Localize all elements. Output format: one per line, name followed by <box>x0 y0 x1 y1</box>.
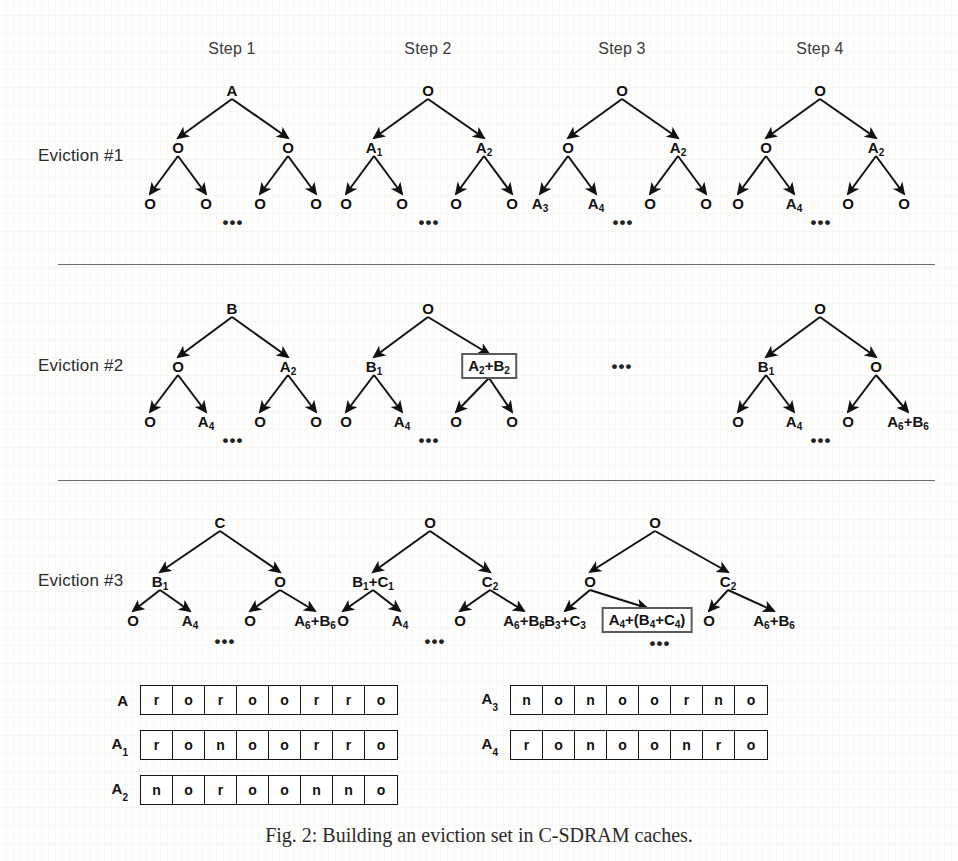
row2-step2-level2-node-1: B1 <box>366 359 382 374</box>
bit-array-5-cell-7: r <box>703 731 735 759</box>
row2-step2-leaf-node-4: O <box>506 414 518 429</box>
row3-step3-leaf-node-3: O <box>703 613 715 628</box>
row3-step3-leaf-node-4: A6+B6 <box>753 613 795 628</box>
row3-step3-level2-node-2: C2 <box>720 574 736 589</box>
row3-step1-root-node: C <box>215 515 226 530</box>
row1-step4-level2-node-1: O <box>760 140 772 155</box>
row1-step1-leaf-node-3: O <box>254 196 266 211</box>
row1-step3-leaf-node-1: A3 <box>532 196 548 211</box>
eviction-row-label-3: Eviction #3 <box>38 571 123 591</box>
bit-array-2-cell-5: o <box>269 731 301 759</box>
row3-step1-level2-node-1: B1 <box>152 574 168 589</box>
bit-array-5-cell-8: o <box>735 731 767 759</box>
bit-array-label-4: A3 <box>482 690 498 710</box>
row1-step2-level2-node-2: A2 <box>476 140 492 155</box>
row2-step4-leaf-node-3: O <box>842 414 854 429</box>
row1-step2-level2-node-1: A1 <box>366 140 382 155</box>
bit-array-5-cell-2: o <box>543 731 575 759</box>
bit-array-3: noroonno <box>140 775 398 805</box>
row2-step4-leaf-node-4: A6+B6 <box>887 414 929 429</box>
row2-step1-leaf-node-1: O <box>144 414 156 429</box>
figure-caption: Fig. 2: Building an eviction set in C-SD… <box>0 824 958 847</box>
bit-array-3-cell-1: n <box>141 776 173 804</box>
row2-step4-level2-node-1: B1 <box>758 359 774 374</box>
row1-step1-leaf-node-2: O <box>200 196 212 211</box>
row2-step1-leaf-node-3: O <box>254 414 266 429</box>
bit-array-1-cell-2: o <box>173 686 205 714</box>
row1-step1-root-node: A <box>227 83 238 98</box>
row1-step3-leaf-node-4: O <box>700 196 712 211</box>
row1-step4-level2-node-2: A2 <box>868 140 884 155</box>
bit-array-3-cell-2: o <box>173 776 205 804</box>
row1-step4-leaf-node-1: O <box>732 196 744 211</box>
step-header-2: Step 2 <box>404 40 451 58</box>
row3-step2-leaf-node-2: A4 <box>392 613 408 628</box>
bit-array-4-cell-6: r <box>671 686 703 714</box>
bit-array-4-cell-4: o <box>607 686 639 714</box>
row3-step1-leaf-node-3: O <box>244 613 256 628</box>
row1-step4-leaf-node-3: O <box>842 196 854 211</box>
bit-array-label-1: A <box>117 692 128 709</box>
row2-step4-level2-node-2: O <box>870 359 882 374</box>
row2-step1-level2-node-2: A2 <box>280 359 296 374</box>
bit-array-4-cell-7: n <box>703 686 735 714</box>
bit-array-label-5: A4 <box>482 735 498 755</box>
row3-step1-ellipsis: ••• <box>215 633 236 650</box>
row3-step3-ellipsis: ••• <box>650 635 671 652</box>
row3-step2-root-node: O <box>424 515 436 530</box>
step-header-3: Step 3 <box>598 40 645 58</box>
row2-step4-leaf-node-1: O <box>732 414 744 429</box>
bit-array-2-cell-7: r <box>333 731 365 759</box>
row3-step2-ellipsis: ••• <box>425 633 446 650</box>
bit-array-1-cell-7: r <box>333 686 365 714</box>
row1-step2-leaf-node-3: O <box>450 196 462 211</box>
bit-array-1-cell-6: r <box>301 686 333 714</box>
row3-step2-level2-node-1: B1+C1 <box>352 574 394 589</box>
row2-step1-level2-node-1: O <box>172 359 184 374</box>
row1-step2-root-node: O <box>422 83 434 98</box>
row3-step3-leaf-node-2: A4+(B4+C4) <box>602 607 693 633</box>
bit-array-4-cell-5: o <box>639 686 671 714</box>
bit-array-3-cell-6: n <box>301 776 333 804</box>
row1-step1-level2-node-1: O <box>172 140 184 155</box>
row1-step4-root-node: O <box>814 83 826 98</box>
row1-step2-leaf-node-4: O <box>506 196 518 211</box>
row1-step3-root-node: O <box>616 83 628 98</box>
bit-array-5-cell-3: n <box>575 731 607 759</box>
row2-step2-ellipsis: ••• <box>419 432 440 449</box>
bit-array-3-cell-5: o <box>269 776 301 804</box>
row1-step1-ellipsis: ••• <box>223 214 244 231</box>
row3-step2-leaf-node-4: A6+B6 <box>503 613 545 628</box>
row2-step2-level2-node-2: A2+B2 <box>461 353 517 379</box>
row2-step4-leaf-node-2: A4 <box>786 414 802 429</box>
row1-step2-leaf-node-1: O <box>340 196 352 211</box>
section-divider-1 <box>58 264 935 265</box>
eviction-row-label-1: Eviction #1 <box>38 146 123 166</box>
row2-step3-placeholder-ellipsis: ••• <box>612 358 633 375</box>
bit-array-1-cell-8: o <box>365 686 397 714</box>
row2-step4-root-node: O <box>814 301 826 316</box>
row1-step1-leaf-node-4: O <box>310 196 322 211</box>
bit-array-4-cell-3: n <box>575 686 607 714</box>
bit-array-4: nonoorno <box>510 685 768 715</box>
bit-array-2-cell-8: o <box>365 731 397 759</box>
bit-array-5-cell-6: n <box>671 731 703 759</box>
bit-array-4-cell-2: o <box>543 686 575 714</box>
bit-array-4-cell-8: o <box>735 686 767 714</box>
bit-array-3-cell-3: r <box>205 776 237 804</box>
bit-array-1: roroorro <box>140 685 398 715</box>
figure-canvas: Step 1Step 2Step 3Step 4 Eviction #1Evic… <box>0 0 958 861</box>
row1-step3-level2-node-2: A2 <box>670 140 686 155</box>
row1-step3-leaf-node-2: A4 <box>588 196 604 211</box>
row2-step1-leaf-node-2: A4 <box>198 414 214 429</box>
bit-array-2-cell-3: n <box>205 731 237 759</box>
row1-step3-leaf-node-3: O <box>644 196 656 211</box>
bit-array-2-cell-2: o <box>173 731 205 759</box>
bit-array-5-cell-4: o <box>607 731 639 759</box>
section-divider-2 <box>58 480 935 481</box>
bit-array-3-cell-8: o <box>365 776 397 804</box>
row1-step4-leaf-node-4: O <box>898 196 910 211</box>
row3-step1-level2-node-2: O <box>274 574 286 589</box>
bit-array-1-cell-5: o <box>269 686 301 714</box>
row2-step4-ellipsis: ••• <box>811 432 832 449</box>
